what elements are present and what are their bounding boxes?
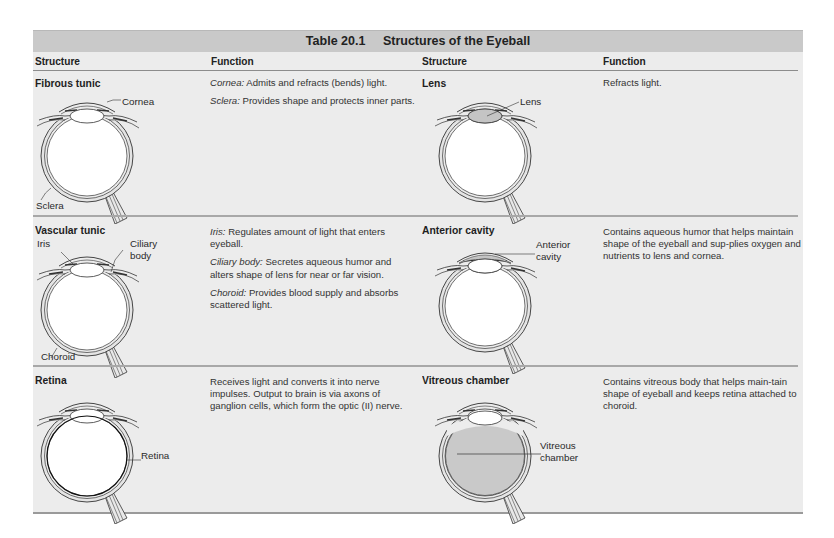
vitreous-chamber-eye-diagram <box>431 392 541 524</box>
header-function-2: Function <box>603 51 646 70</box>
function-retina: Receives light and converts it into nerv… <box>210 376 415 419</box>
label-vitreous-chamber: chamber <box>540 452 578 463</box>
label-choroid: Choroid <box>41 351 75 362</box>
label-sclera: Sclera <box>36 200 64 211</box>
label-lens: Lens <box>520 96 541 107</box>
structure-vascular-tunic: Vascular tunic <box>35 224 105 236</box>
label-ciliary-body: body <box>130 250 151 261</box>
function-anterior-cavity: Contains aqueous humor that helps mainta… <box>603 226 803 269</box>
function-fibrous-tunic: Cornea: Admits and refracts (bends) ligh… <box>210 77 415 113</box>
lens-eye-diagram <box>431 92 541 224</box>
table-title-bar: Table 20.1 Structures of the Eyeball <box>33 30 803 52</box>
table-title: Structures of the Eyeball <box>383 34 530 48</box>
function-lens: Refracts light. <box>603 77 808 95</box>
label-retina: Retina <box>141 450 169 461</box>
label-vitreous: Vitreous <box>540 440 576 451</box>
label-anterior-cavity: cavity <box>536 251 561 262</box>
label-cornea: Cornea <box>122 96 154 107</box>
row-divider-1 <box>33 215 798 217</box>
structure-retina: Retina <box>35 374 67 386</box>
function-choroid: Choroid: Provides blood supply and absor… <box>210 287 415 311</box>
function-cornea: Cornea: Admits and refracts (bends) ligh… <box>210 77 415 89</box>
label-anterior: Anterior <box>536 239 570 250</box>
anterior-cavity-eye-diagram <box>431 242 541 374</box>
table-number: Table 20.1 <box>306 34 366 48</box>
header-structure-1: Structure <box>35 51 80 70</box>
eyeball-structures-table: Table 20.1 Structures of the Eyeball Str… <box>33 30 803 514</box>
function-ciliary-body: Ciliary body: Secretes aqueous humor and… <box>210 256 415 280</box>
structure-lens: Lens <box>422 77 446 89</box>
structure-anterior-cavity: Anterior cavity <box>422 224 494 236</box>
structure-fibrous-tunic: Fibrous tunic <box>35 77 101 89</box>
header-divider <box>33 70 798 71</box>
label-iris: Iris <box>37 238 50 249</box>
function-vitreous-chamber: Contains vitreous body that helps main-t… <box>603 376 803 419</box>
header-structure-2: Structure <box>422 51 467 70</box>
retina-eye-diagram <box>33 392 143 524</box>
header-function-1: Function <box>211 51 254 70</box>
function-iris: Iris: Regulates amount of light that ent… <box>210 226 415 250</box>
row-divider-2 <box>33 365 798 367</box>
function-sclera: Sclera: Provides shape and protects inne… <box>210 95 415 107</box>
label-ciliary: Ciliary <box>130 238 157 249</box>
structure-vitreous-chamber: Vitreous chamber <box>422 374 509 386</box>
function-vascular-tunic: Iris: Regulates amount of light that ent… <box>210 226 415 317</box>
